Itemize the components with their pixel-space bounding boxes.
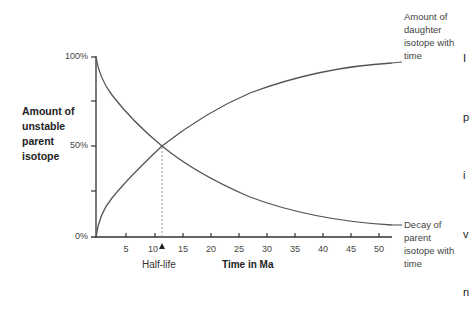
label-line: time — [404, 257, 454, 270]
label-line: time — [404, 49, 454, 62]
y-tick-label-50: 50% — [52, 140, 88, 150]
x-tick-label: 30 — [257, 244, 277, 254]
decay-curve — [96, 57, 392, 225]
clipped-glyph: n — [463, 283, 475, 303]
y-tick-label-0: 0% — [52, 231, 88, 241]
daughter-curve-label: Amount of daughter isotope with time — [404, 10, 454, 62]
label-line: daughter — [404, 23, 454, 36]
x-tick-label: 35 — [285, 244, 305, 254]
label-line: parent — [404, 231, 454, 244]
label-line: Amount of — [404, 10, 454, 23]
x-axis-title: Time in Ma — [222, 259, 274, 270]
x-tick-label: 50 — [369, 244, 389, 254]
x-tick-label: 20 — [201, 244, 221, 254]
x-tick-label: 40 — [313, 244, 333, 254]
x-tick-label: 45 — [341, 244, 361, 254]
label-line: isotope with — [404, 36, 454, 49]
label-line: Decay of — [404, 218, 454, 231]
x-tick-label: 10 — [143, 244, 163, 254]
clipped-glyph: i — [463, 166, 475, 186]
daughter-curve — [96, 63, 392, 237]
label-line: isotope with — [404, 244, 454, 257]
clipped-text-column: I p i v n t c i v - i l c c l — [463, 10, 475, 315]
daughter-connector — [392, 62, 402, 63]
y-axis-title: Amount of unstable parent isotope — [22, 104, 75, 164]
y-tick-label-100: 100% — [52, 51, 88, 61]
clipped-glyph: v — [463, 225, 475, 245]
decay-curve-label: Decay of parent isotope with time — [404, 218, 454, 270]
y-title-line: Amount of — [22, 104, 75, 119]
x-tick-label: 5 — [116, 244, 136, 254]
half-life-label: Half-life — [142, 259, 176, 270]
y-title-line: unstable — [22, 119, 75, 134]
x-tick-label: 25 — [229, 244, 249, 254]
x-tick-label: 15 — [173, 244, 193, 254]
clipped-glyph: I — [463, 49, 475, 69]
clipped-glyph: p — [463, 108, 475, 128]
y-title-line: isotope — [22, 149, 75, 164]
